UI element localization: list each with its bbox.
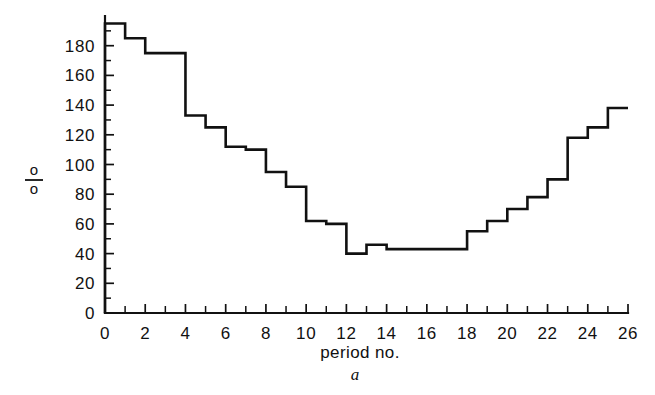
y-tick-label: 160 [65, 66, 95, 85]
x-tick-label: 16 [417, 324, 437, 343]
x-tick-label: 12 [336, 324, 356, 343]
y-tick-label: 80 [75, 185, 95, 204]
x-tick-label: 18 [457, 324, 477, 343]
y-tick-label: 60 [75, 215, 95, 234]
step-chart-figure: o o 020406080100120140160180 02468101214… [0, 0, 655, 395]
x-tick-label: 26 [618, 324, 638, 343]
x-tick-label: 6 [221, 324, 231, 343]
y-tick-label: 180 [65, 37, 95, 56]
x-tick-label: 20 [497, 324, 517, 343]
x-tick-label: 2 [140, 324, 150, 343]
y-axis-label-upper-o: o [30, 161, 38, 178]
chart-canvas: o o 020406080100120140160180 02468101214… [0, 0, 655, 395]
y-axis-label-lower-o: o [30, 180, 38, 197]
y-tick-label: 20 [75, 274, 95, 293]
y-tick-label: 0 [85, 304, 95, 323]
y-tick-label: 140 [65, 96, 95, 115]
x-axis-title: period no. [320, 343, 400, 362]
x-tick-label: 10 [296, 324, 316, 343]
figure-caption: a [351, 365, 360, 384]
x-tick-label: 14 [377, 324, 397, 343]
y-tick-label: 120 [65, 126, 95, 145]
x-tick-label: 24 [578, 324, 598, 343]
x-tick-label: 22 [537, 324, 557, 343]
x-tick-label: 4 [180, 324, 190, 343]
y-tick-label: 100 [65, 156, 95, 175]
y-tick-label: 40 [75, 245, 95, 264]
x-tick-label: 0 [100, 324, 110, 343]
x-tick-label: 8 [261, 324, 271, 343]
